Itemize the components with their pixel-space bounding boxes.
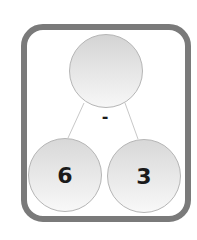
top-circle-whole[interactable] [69, 34, 143, 108]
part-value: 3 [136, 164, 151, 189]
part-value: 6 [57, 163, 72, 188]
operator-minus: - [97, 107, 113, 126]
part-circle-right: 3 [107, 139, 181, 213]
part-circle-left: 6 [28, 138, 102, 212]
